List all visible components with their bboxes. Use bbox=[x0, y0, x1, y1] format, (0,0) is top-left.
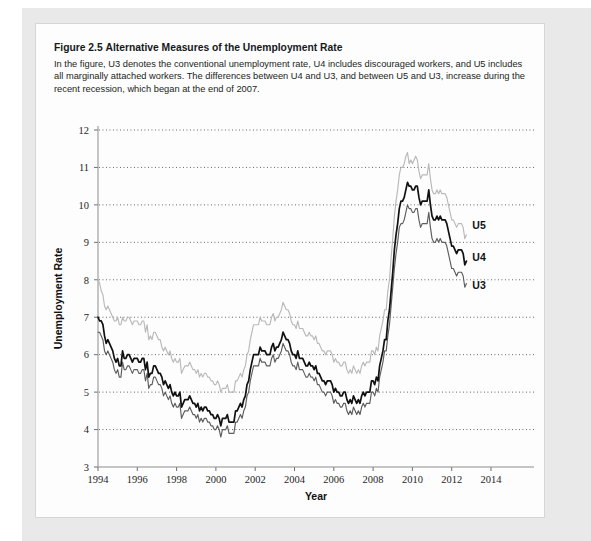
figure-caption: Figure 2.5 Alternative Measures of the U… bbox=[54, 41, 532, 95]
y-tick-label: 5 bbox=[84, 387, 89, 398]
y-axis-title: Unemployment Rate bbox=[52, 248, 64, 350]
x-tick-label: 1998 bbox=[166, 474, 187, 485]
x-tick-label: 2014 bbox=[481, 474, 503, 485]
x-axis-tick-marks bbox=[98, 467, 491, 471]
printed-page: Figure 2.5 Alternative Measures of the U… bbox=[22, 8, 591, 541]
caption-body-text: In the figure, U3 denotes the convention… bbox=[54, 58, 532, 95]
y-axis-tick-marks bbox=[94, 130, 98, 467]
x-tick-label: 2002 bbox=[245, 474, 266, 485]
x-axis-title: Year bbox=[305, 490, 327, 502]
x-tick-label: 2004 bbox=[284, 474, 306, 485]
series-label-u4: U4 bbox=[472, 251, 486, 263]
x-tick-label: 2010 bbox=[402, 474, 423, 485]
caption-title-line: Figure 2.5 Alternative Measures of the U… bbox=[54, 41, 532, 55]
x-tick-label: 1996 bbox=[127, 474, 148, 485]
unemployment-rate-line-chart: 3456789101112 19941996199820002002200420… bbox=[36, 24, 546, 519]
y-tick-label: 6 bbox=[84, 349, 89, 360]
series-line-u3 bbox=[98, 205, 466, 437]
x-axis-tick-labels: 1994199619982000200220042006200820102012… bbox=[88, 474, 503, 485]
series-label-u5: U5 bbox=[472, 219, 486, 231]
y-tick-label: 3 bbox=[84, 462, 89, 473]
figure-number: Figure 2.5 bbox=[54, 42, 103, 53]
figure-title: Alternative Measures of the Unemployment… bbox=[106, 42, 343, 53]
series-inline-labels: U5U4U3 bbox=[472, 219, 486, 291]
y-tick-label: 4 bbox=[84, 424, 90, 435]
x-tick-label: 2012 bbox=[441, 474, 462, 485]
x-tick-label: 2000 bbox=[205, 474, 226, 485]
x-tick-label: 1994 bbox=[88, 474, 110, 485]
figure-card: Figure 2.5 Alternative Measures of the U… bbox=[35, 23, 545, 518]
x-tick-label: 2008 bbox=[363, 474, 384, 485]
series-label-u3: U3 bbox=[472, 279, 486, 291]
y-tick-label: 11 bbox=[79, 162, 89, 173]
y-tick-label: 12 bbox=[79, 125, 90, 136]
y-tick-label: 8 bbox=[84, 275, 89, 286]
series-line-u5 bbox=[98, 152, 466, 392]
horizontal-gridlines bbox=[99, 130, 534, 430]
series-line-u4 bbox=[98, 182, 466, 425]
y-axis-tick-labels: 3456789101112 bbox=[79, 125, 90, 473]
y-tick-label: 10 bbox=[79, 200, 90, 211]
x-tick-label: 2006 bbox=[323, 474, 344, 485]
data-series-group bbox=[98, 152, 466, 437]
y-tick-label: 7 bbox=[84, 312, 89, 323]
y-tick-label: 9 bbox=[84, 237, 89, 248]
